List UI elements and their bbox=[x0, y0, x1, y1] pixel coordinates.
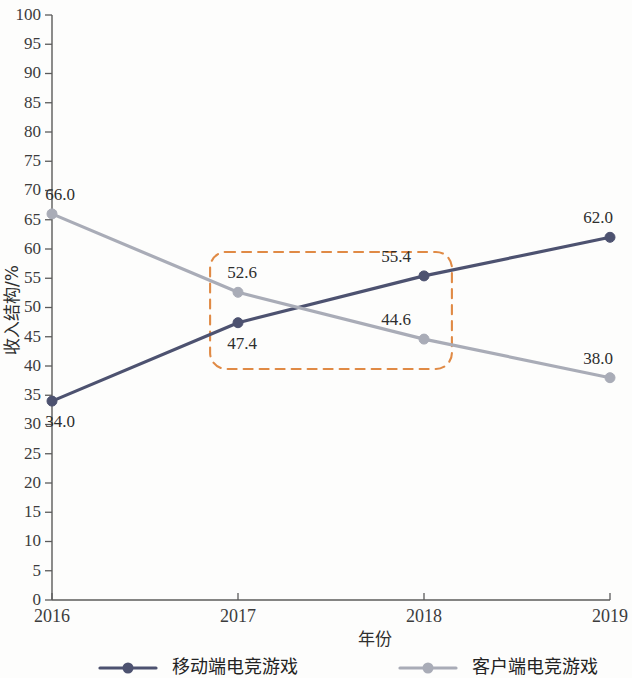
y-tick-label: 40 bbox=[24, 356, 41, 375]
legend-marker-icon bbox=[123, 663, 134, 674]
y-tick-label: 45 bbox=[24, 327, 41, 346]
series-mobile: 34.047.455.462.0 bbox=[45, 208, 615, 431]
y-tick-label: 50 bbox=[24, 297, 41, 316]
data-point bbox=[47, 396, 57, 406]
y-tick-label: 5 bbox=[33, 561, 42, 580]
data-point bbox=[419, 334, 429, 344]
data-point bbox=[233, 287, 243, 297]
series-group: 34.047.455.462.066.052.644.638.0 bbox=[45, 185, 615, 431]
y-tick-label: 55 bbox=[24, 268, 41, 287]
legend-label: 移动端电竞游戏 bbox=[172, 656, 298, 677]
line-chart-svg: 0510152025303540455055606570758085909510… bbox=[0, 0, 632, 678]
y-tick-label: 75 bbox=[24, 151, 41, 170]
y-tick-label: 20 bbox=[24, 473, 41, 492]
y-tick-label: 80 bbox=[24, 122, 41, 141]
x-tick-label: 2018 bbox=[406, 606, 442, 626]
data-point-label: 44.6 bbox=[381, 310, 411, 329]
y-tick-label: 10 bbox=[24, 531, 41, 550]
series-line bbox=[52, 214, 610, 378]
data-point-label: 55.4 bbox=[381, 247, 411, 266]
data-point-label: 62.0 bbox=[583, 208, 613, 227]
data-point bbox=[605, 232, 615, 242]
y-tick-label: 100 bbox=[16, 5, 42, 24]
data-point-label: 52.6 bbox=[227, 263, 257, 282]
data-point bbox=[605, 373, 615, 383]
x-tick-label: 2017 bbox=[220, 606, 256, 626]
y-tick-label: 95 bbox=[24, 34, 41, 53]
chart-container: 0510152025303540455055606570758085909510… bbox=[0, 0, 632, 678]
y-tick-label: 25 bbox=[24, 444, 41, 463]
series-line bbox=[52, 237, 610, 401]
x-tick-label: 2016 bbox=[34, 606, 70, 626]
legend-marker-icon bbox=[423, 663, 434, 674]
legend-item-client[interactable]: 客户端电竞游戏 bbox=[400, 656, 598, 677]
data-point-label: 47.4 bbox=[227, 334, 257, 353]
y-tick-label: 15 bbox=[24, 502, 41, 521]
data-point-label: 66.0 bbox=[45, 185, 75, 204]
y-tick-label: 65 bbox=[24, 210, 41, 229]
x-tick-label: 2019 bbox=[592, 606, 628, 626]
y-tick-label: 60 bbox=[24, 239, 41, 258]
axes-group bbox=[52, 15, 610, 600]
y-axis-title: 收入结构/% bbox=[2, 265, 22, 355]
legend-item-mobile[interactable]: 移动端电竞游戏 bbox=[100, 656, 298, 677]
y-tick-label: 85 bbox=[24, 93, 41, 112]
x-axis-title: 年份 bbox=[358, 629, 392, 649]
y-tick-label: 30 bbox=[24, 414, 41, 433]
data-point-label: 38.0 bbox=[583, 349, 613, 368]
y-tick-label: 35 bbox=[24, 385, 41, 404]
y-tick-label: 90 bbox=[24, 63, 41, 82]
chart-legend: 移动端电竞游戏客户端电竞游戏 bbox=[100, 656, 598, 677]
y-tick-label: 70 bbox=[24, 180, 41, 199]
data-point bbox=[233, 318, 243, 328]
series-client: 66.052.644.638.0 bbox=[45, 185, 615, 383]
legend-label: 客户端电竞游戏 bbox=[472, 656, 598, 677]
data-point bbox=[419, 271, 429, 281]
data-point bbox=[47, 209, 57, 219]
x-axis-ticks: 2016201720182019 bbox=[34, 593, 628, 626]
data-point-label: 34.0 bbox=[45, 412, 75, 431]
